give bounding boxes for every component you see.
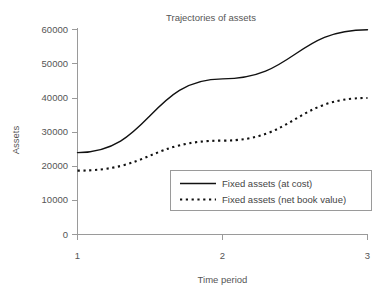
x-tick-label-1: 1 — [75, 250, 80, 261]
legend-label-at-cost: Fixed assets (at cost) — [222, 178, 312, 189]
y-axis-title: Assets — [10, 125, 21, 154]
y-tick-label-60000: 60000 — [42, 24, 68, 35]
y-tick-label-0: 0 — [63, 229, 68, 240]
y-tick-label-50000: 50000 — [42, 58, 68, 69]
assets-trajectory-chart: Trajectories of assets 0 10000 20000 300… — [0, 0, 382, 293]
chart-title: Trajectories of assets — [166, 12, 256, 23]
y-tick-label-40000: 40000 — [42, 92, 68, 103]
series-line-fixed-assets-at-cost — [78, 30, 368, 153]
x-tick-label-2: 2 — [220, 250, 225, 261]
legend-label-net-book-value: Fixed assets (net book value) — [222, 194, 346, 205]
x-tick-label-3: 3 — [365, 250, 370, 261]
y-tick-label-20000: 20000 — [42, 160, 68, 171]
series-line-fixed-assets-net-book-value — [78, 98, 368, 171]
legend: Fixed assets (at cost) Fixed assets (net… — [171, 171, 372, 211]
y-tick-label-30000: 30000 — [42, 126, 68, 137]
chart-container: Trajectories of assets 0 10000 20000 300… — [0, 0, 382, 293]
y-tick-label-10000: 10000 — [42, 194, 68, 205]
x-axis-title: Time period — [198, 274, 248, 285]
